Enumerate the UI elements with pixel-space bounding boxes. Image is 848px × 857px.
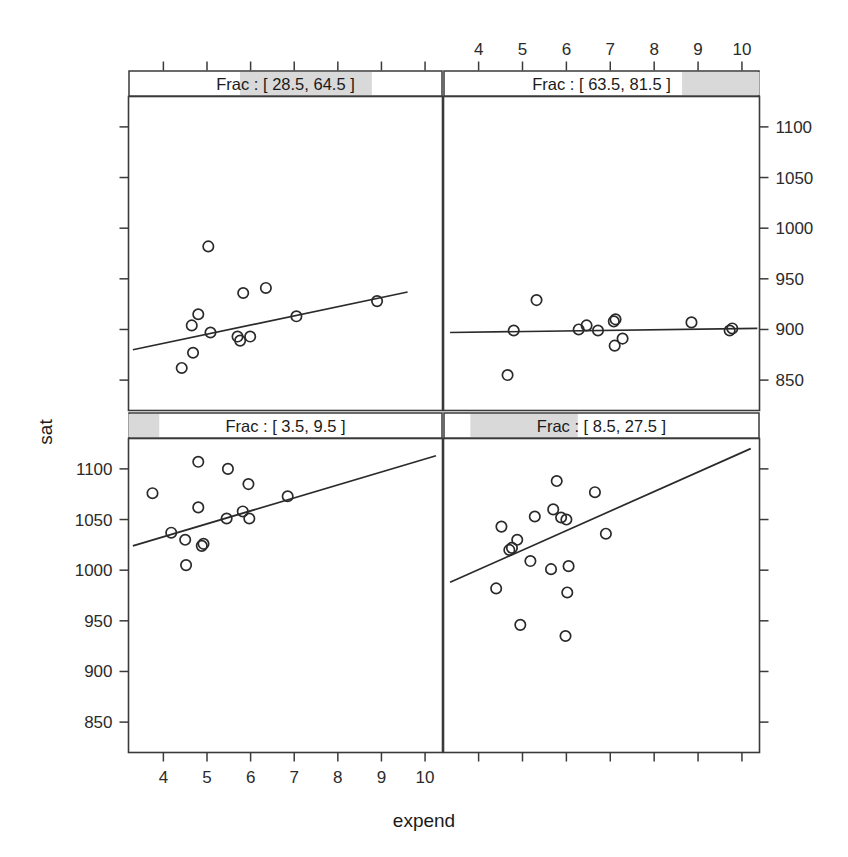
x-tick-label: 4 [474, 40, 483, 59]
x-tick-label: 5 [202, 768, 211, 787]
y-tick-label: 1100 [776, 118, 813, 137]
strip-label-text: Frac : [ 63.5, 81.5 ] [532, 75, 671, 93]
strip-shade [129, 414, 160, 437]
strip-label-text: Frac : [ 8.5, 27.5 ] [537, 417, 666, 435]
x-tick-label: 7 [289, 768, 298, 787]
y-tick-label: 1000 [776, 219, 814, 238]
x-tick-label: 10 [416, 768, 435, 787]
y-tick-label: 900 [776, 320, 804, 339]
y-tick-label: 1000 [75, 561, 113, 580]
x-tick-label: 10 [732, 40, 751, 59]
strip-label-text: Frac : [ 28.5, 64.5 ] [216, 75, 355, 93]
x-tick-label: 4 [159, 768, 168, 787]
y-tick-label: 950 [776, 270, 804, 289]
y-tick-label: 1050 [75, 511, 113, 530]
strip-bottom-left: Frac : [ 3.5, 9.5 ] [129, 413, 443, 438]
x-tick-label: 6 [246, 768, 255, 787]
strip-top-right: Frac : [ 63.5, 81.5 ] [444, 71, 760, 96]
y-axis-title: sat [35, 419, 56, 445]
y-tick-label: 950 [84, 612, 112, 631]
y-tick-label: 1050 [776, 169, 814, 188]
strip-bottom-right: Frac : [ 8.5, 27.5 ] [444, 413, 759, 438]
x-tick-label: 6 [562, 40, 571, 59]
y-tick-label: 1100 [76, 460, 113, 479]
y-tick-label: 850 [84, 713, 112, 732]
y-tick-label: 900 [84, 662, 112, 681]
x-tick-label: 7 [606, 40, 615, 59]
coplot-svg: Frac : [ 28.5, 64.5 ] Frac : [ 63.5, 81.… [0, 0, 848, 857]
coplot-figure: Frac : [ 28.5, 64.5 ] Frac : [ 63.5, 81.… [0, 0, 848, 857]
x-axis-title: expend [393, 810, 455, 831]
y-tick-label: 850 [776, 371, 804, 390]
strip-label-text: Frac : [ 3.5, 9.5 ] [225, 417, 345, 435]
strip-top-left: Frac : [ 28.5, 64.5 ] [129, 71, 442, 96]
x-tick-label: 8 [333, 768, 342, 787]
x-tick-label: 5 [518, 40, 527, 59]
strip-shade [682, 72, 759, 95]
x-tick-label: 9 [377, 768, 386, 787]
x-tick-label: 9 [693, 40, 702, 59]
x-tick-label: 8 [649, 40, 658, 59]
